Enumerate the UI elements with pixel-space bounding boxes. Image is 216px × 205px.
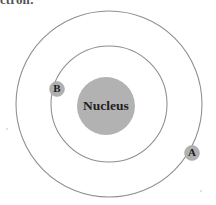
atom-diagram-screenshot: ctron: Nucleus B A <box>0 0 216 205</box>
atom-diagram: Nucleus B A <box>0 0 216 205</box>
nucleus-label: Nucleus <box>83 98 129 113</box>
scan-speck <box>200 190 202 192</box>
electron-b-label: B <box>53 82 61 94</box>
scan-speck <box>6 128 8 130</box>
electron-a-label: A <box>188 146 196 158</box>
